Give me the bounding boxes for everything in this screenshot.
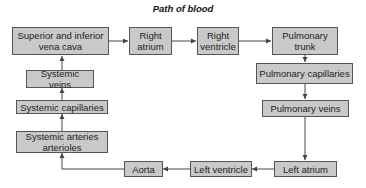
node-systemic-capillaries: Systemic capillaries xyxy=(16,100,108,114)
node-right-atrium: Right atrium xyxy=(129,27,172,55)
node-aorta: Aorta xyxy=(124,161,163,177)
node-pulmonary-veins: Pulmonary veins xyxy=(262,100,349,117)
node-left-atrium: Left atrium xyxy=(274,161,337,177)
node-left-ventricle: Left ventricle xyxy=(190,161,252,177)
node-systemic-veins: Systemic veins xyxy=(26,70,94,88)
arrow-aorta-to-systemic-arteries xyxy=(62,153,124,169)
node-right-ventricle: Right ventricle xyxy=(197,27,239,55)
node-pulmonary-trunk: Pulmonary trunk xyxy=(272,27,338,55)
node-systemic-arteries-arterioles: Systemic arteries arterioles xyxy=(16,131,108,153)
node-vena-cava: Superior and inferior vena cava xyxy=(12,27,109,55)
node-pulmonary-capillaries: Pulmonary capillaries xyxy=(256,63,353,84)
